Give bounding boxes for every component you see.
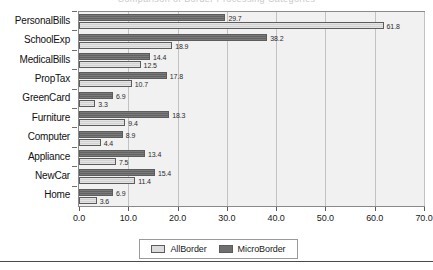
legend-swatch-microborder [219,245,233,253]
value-label: 3.3 [98,101,107,108]
value-label: 61.8 [387,23,400,30]
bar-allborder-home [79,197,97,204]
value-label: 15.4 [158,170,171,177]
x-axis-tick-label: 50.0 [317,213,334,223]
y-axis-tick [72,89,77,90]
x-axis-tick-label: 40.0 [268,213,285,223]
bar-microborder-schoolexp [79,34,267,41]
x-axis-tick-label: 70.0 [415,213,432,223]
bar-microborder-greencard [79,92,113,99]
x-axis-tick-label: 60.0 [366,213,383,223]
bar-microborder-computer [79,131,123,138]
y-axis-label-furniture: Furniture [32,113,70,123]
chart-legend: AllBorderMicroBorder [139,239,298,259]
bar-allborder-computer [79,139,101,146]
bar-allborder-medicalbills [79,61,141,68]
value-label: 6.9 [116,190,125,197]
plot-area: 29.761.838.218.914.412.517.810.76.93.318… [78,11,425,207]
y-axis-label-newcar: NewCar [35,171,70,181]
value-label: 8.9 [126,132,135,139]
x-axis-tick-label: 10.0 [120,213,137,223]
x-axis: 0.010.020.030.040.050.060.070.0 [78,207,425,229]
y-axis-label-appliance: Appliance [28,152,70,162]
y-axis-tick [72,11,77,12]
gridline [424,12,425,206]
legend-label: AllBorder [170,244,206,254]
y-axis-tick [72,166,77,167]
x-axis-tick [276,207,277,211]
value-label: 14.4 [153,54,166,61]
value-label: 7.5 [119,159,128,166]
value-label: 11.4 [138,178,151,185]
bar-allborder-appliance [79,158,116,165]
y-axis-tick [72,147,77,148]
legend-item-microborder[interactable]: MicroBorder [219,244,286,254]
x-axis-tick [424,207,425,211]
bottom-divider [0,261,433,262]
value-label: 12.5 [144,62,157,69]
x-axis-tick [178,207,179,211]
y-axis-tick [72,50,77,51]
value-label: 10.7 [135,81,148,88]
bar-allborder-greencard [79,100,95,107]
y-axis-label-greencard: GreenCard [22,93,70,103]
bar-microborder-furniture [79,111,169,118]
bar-microborder-newcar [79,169,155,176]
x-axis-tick-label: 30.0 [218,213,235,223]
y-axis-label-computer: Computer [28,132,70,142]
value-label: 6.9 [116,93,125,100]
legend-swatch-allborder [151,245,165,253]
bar-microborder-personalbills [79,14,225,21]
x-axis-tick [325,207,326,211]
y-axis-tick [72,186,77,187]
bar-microborder-home [79,189,113,196]
x-axis-tick [79,207,80,211]
bar-microborder-medicalbills [79,53,150,60]
x-axis-tick [128,207,129,211]
y-axis-label-personalbills: PersonalBills [15,16,70,26]
bar-allborder-personalbills [79,22,384,29]
legend-item-allborder[interactable]: AllBorder [151,244,206,254]
bar-chart: PersonalBillsSchoolExpMedicalBillsPropTa… [0,7,433,252]
value-label: 3.6 [100,198,109,205]
clipped-title-strip: Comparison of Border Processing Categori… [0,0,433,7]
bar-microborder-proptax [79,72,167,79]
value-label: 18.9 [175,43,188,50]
value-label: 18.3 [172,112,185,119]
y-axis-tick [72,108,77,109]
value-label: 29.7 [228,15,241,22]
value-label: 38.2 [270,35,283,42]
x-axis-tick-label: 0.0 [73,213,85,223]
x-axis-tick-label: 20.0 [169,213,186,223]
y-axis-tick [72,69,77,70]
y-axis-label-medicalbills: MedicalBills [20,55,70,65]
bar-allborder-proptax [79,80,132,87]
bar-allborder-schoolexp [79,42,172,49]
x-axis-tick [227,207,228,211]
y-axis-tick [72,30,77,31]
bar-allborder-furniture [79,119,125,126]
value-label: 13.4 [148,151,161,158]
value-label: 9.4 [128,120,137,127]
y-axis-category-labels: PersonalBillsSchoolExpMedicalBillsPropTa… [0,11,74,207]
value-label: 4.4 [104,140,113,147]
bar-rows: 29.761.838.218.914.412.517.810.76.93.318… [79,12,424,206]
bar-allborder-newcar [79,177,135,184]
y-axis-label-proptax: PropTax [35,74,70,84]
y-axis-label-home: Home [44,190,70,200]
bar-microborder-appliance [79,150,145,157]
y-axis-label-schoolexp: SchoolExp [24,35,70,45]
value-label: 17.8 [170,73,183,80]
legend-label: MicroBorder [238,244,286,254]
chart-title-faint: Comparison of Border Processing Categori… [0,0,433,4]
y-axis-tick [72,127,77,128]
x-axis-tick [375,207,376,211]
